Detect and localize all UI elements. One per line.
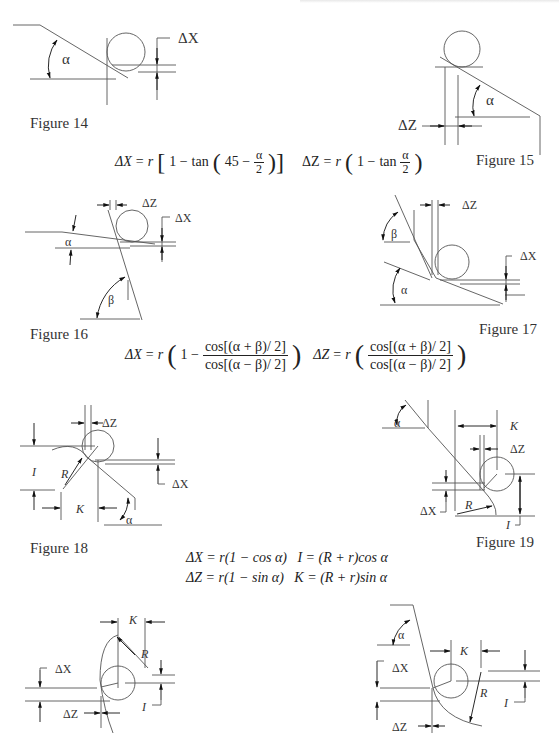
fig14-dx-label: ΔX [178,30,198,47]
fig15-alpha-label: α [486,92,494,109]
fig18-k-label: K [76,502,84,517]
figure-18-caption: Figure 18 [30,540,88,557]
fig21-dz-label: ΔZ [392,720,407,733]
fig20-r-label: R [141,647,148,662]
fig20-i-label: I [142,700,146,715]
figure-14-drawing [13,25,176,105]
figure-15-drawing [422,31,540,155]
fig18-dz-label: ΔZ [102,416,117,431]
fig16-dz-label: ΔZ [142,196,157,211]
formula-fig16-17: ΔX = r (1 − cos[(α + β)/ 2]cos[(α − β)/ … [125,332,466,378]
fig17-dx-label: ΔX [520,249,536,264]
figure-18-drawing [20,405,175,525]
formula-fig14-15: ΔX = r [1 − tan (45 − α2 )] ΔZ = r (1 − … [115,142,422,182]
figure-19-caption: Figure 19 [476,534,534,551]
fig15-dz-label: ΔZ [398,117,417,134]
fig21-dx-label: ΔX [392,661,408,676]
fig20-k-label: K [129,613,137,628]
figure-14-caption: Figure 14 [30,115,88,132]
fig18-r-label: R [61,467,68,482]
fig21-i-label: I [504,696,508,711]
fig17-alpha-label: α [401,283,407,298]
fig14-alpha-label: α [62,51,70,68]
fig20-dx-label: ΔX [55,662,71,677]
fig20-dz-label: ΔZ [63,707,78,722]
fig19-r-label: R [465,498,472,513]
figure-17-caption: Figure 17 [479,321,537,338]
fig21-r-label: R [480,686,487,701]
figure-20-drawing [25,618,175,733]
fig21-alpha-label: α [398,628,404,643]
fig18-dx-label: ΔX [172,477,188,492]
fig18-alpha-label: α [126,513,132,528]
figure-15-caption: Figure 15 [476,152,534,169]
fig19-i-label: I [506,518,510,533]
figure-16-drawing [25,200,176,320]
fig17-dz-label: ΔZ [462,198,477,213]
figure-16-caption: Figure 16 [30,326,88,343]
fig16-dx-label: ΔX [175,211,191,226]
fig21-k-label: K [460,644,468,659]
formula-fig18-19-line2: ΔZ = r(1 − sin α) K = (R + r)sin α [186,570,387,586]
formula-fig18-19-line1: ΔX = r(1 − cos α) I = (R + r)cos α [186,550,388,566]
fig18-i-label: I [32,465,36,480]
fig16-beta-label: β [108,293,114,308]
fig19-alpha-label: α [394,416,400,431]
fig16-alpha-label: α [65,235,71,250]
fig19-dz-label: ΔZ [510,442,525,457]
fig19-dx-label: ΔX [420,504,436,519]
fig19-k-label: K [510,419,518,434]
fig17-beta-label: β [391,227,397,242]
